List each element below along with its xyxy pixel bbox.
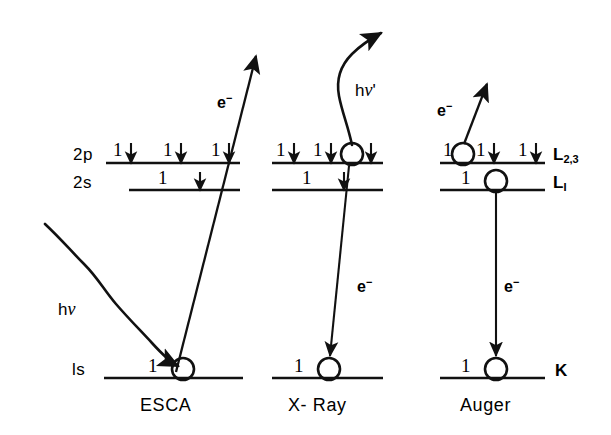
esca-column-levels	[104, 163, 243, 378]
xray-electron-label-text: e	[357, 278, 366, 295]
auger-spin-down-arrows	[494, 143, 536, 163]
level-label-l1-main: L	[553, 173, 563, 192]
photoelectron-label-text: e	[217, 94, 226, 111]
level-label-l1-sub: I	[563, 181, 566, 193]
incident-photon-label: hν	[58, 300, 75, 318]
auger-electron-escape-arrow	[464, 84, 487, 144]
incident-photon-wave	[45, 224, 178, 366]
auger-transition-electron-charge: −	[513, 276, 519, 288]
auger-transition-electron-label: e−	[504, 277, 519, 295]
occupancy-esca-2s-1: 1	[158, 168, 168, 187]
photoelectron-label: e−	[217, 93, 232, 111]
auger-column-levels	[440, 163, 545, 378]
shell-label-1s: ls	[72, 361, 85, 378]
energy-level-diagram: 2p 2s ls 1 1 1 1 1 1 1 1 1 1 1 1 1 1 L2,…	[0, 0, 611, 435]
xray-electron-charge: −	[366, 276, 372, 288]
auger-electron-label: e−	[437, 101, 452, 119]
occupancy-esca-1s-1: 1	[148, 356, 158, 375]
occupancy-xray-1s-1: 1	[294, 356, 304, 375]
occupancy-auger-k-1: 1	[461, 356, 471, 375]
level-label-l1: LI	[553, 174, 566, 191]
auger-electron-label-text: e	[437, 102, 446, 119]
photoelectron-charge: −	[226, 92, 232, 104]
occupancy-esca-2p-1: 1	[113, 140, 123, 159]
esca-photoelectron-arrow	[176, 56, 256, 372]
level-label-k: K	[555, 362, 567, 379]
occupancy-auger-l23-3: 1	[518, 140, 528, 159]
occupancy-xray-2p-1: 1	[276, 140, 286, 159]
shell-label-2p: 2p	[73, 146, 93, 163]
caption-esca: ESCA	[140, 396, 191, 414]
occupancy-auger-l1-1: 1	[461, 168, 471, 187]
level-label-l23: L2,3	[553, 146, 579, 163]
auger-transition-electron-text: e	[504, 278, 513, 295]
caption-xray: X- Ray	[288, 396, 347, 414]
occupancy-auger-l23-2: 1	[476, 140, 486, 159]
occupancy-xray-2s-1: 1	[302, 168, 312, 187]
emitted-photon-label: hν'	[355, 81, 376, 99]
xray-column-levels	[272, 163, 383, 378]
occupancy-auger-l23-1: 1	[443, 140, 453, 159]
occupancy-esca-2p-2: 1	[163, 140, 173, 159]
level-label-l23-sub: 2,3	[563, 153, 578, 165]
shell-label-2s: 2s	[73, 174, 92, 191]
xray-electron-transition-arrow	[330, 166, 349, 356]
auger-electron-charge: −	[446, 100, 452, 112]
level-label-l23-main: L	[553, 145, 563, 164]
xray-electron-label: e−	[357, 277, 372, 295]
diagram-canvas	[0, 0, 611, 435]
incident-photon-nu: ν	[67, 299, 75, 319]
emitted-photon-prime: '	[372, 81, 375, 100]
occupancy-esca-2p-3: 1	[211, 140, 221, 159]
caption-auger: Auger	[460, 396, 511, 414]
occupancy-xray-2p-2: 1	[313, 140, 323, 159]
